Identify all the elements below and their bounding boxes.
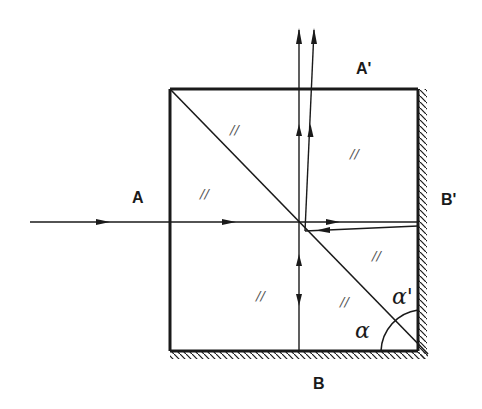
label-alpha: α [355, 318, 370, 343]
tilted-output-ray [305, 28, 317, 231]
label-alpha-prime: α' [392, 284, 413, 309]
label-b-prime: B' [441, 191, 456, 208]
mirror-b-prime-hatch [419, 89, 427, 359]
glass-marks: // // // // // // [199, 122, 382, 309]
svg-text://: // [371, 248, 382, 263]
label-b: B [313, 375, 325, 392]
vertical-ray [296, 28, 302, 351]
svg-text://: // [229, 122, 240, 137]
label-a-prime: A' [356, 60, 371, 77]
beam-splitter-diagram: // // // // // // A A' B B' α α' [0, 0, 482, 409]
transmitted-ray [300, 219, 418, 233]
svg-text://: // [339, 294, 350, 309]
angle-arc [381, 310, 418, 351]
svg-text://: // [349, 146, 360, 161]
incoming-ray [30, 219, 300, 225]
svg-text://: // [255, 288, 266, 303]
label-a: A [132, 189, 144, 206]
mirror-b-hatch [170, 352, 428, 359]
svg-text://: // [199, 186, 210, 201]
